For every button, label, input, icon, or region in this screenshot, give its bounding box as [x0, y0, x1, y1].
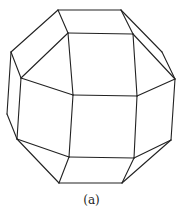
edge-MN [69, 157, 134, 158]
edge-CI [68, 33, 73, 95]
edge-DH [133, 34, 175, 79]
edge-AE [11, 10, 58, 52]
edge-AC [58, 10, 68, 33]
edge-HJ [137, 79, 175, 96]
edge-OQ [122, 140, 171, 183]
edge-MP [59, 157, 69, 183]
edge-HO [171, 79, 175, 140]
edge-BD [121, 10, 133, 34]
edge-NO [134, 140, 171, 158]
edge-CD [68, 33, 133, 34]
edge-KL [7, 114, 17, 139]
edge-NQ [122, 158, 134, 183]
polyhedron-figure [0, 0, 183, 213]
edge-BF [121, 10, 162, 52]
edge-JN [134, 96, 137, 158]
edge-CG [21, 33, 68, 78]
figure-caption: (a) [0, 193, 183, 207]
edge-IM [69, 95, 73, 157]
edge-EK [7, 52, 11, 114]
edge-DJ [133, 34, 137, 96]
edge-GL [17, 78, 21, 139]
edge-EG [11, 52, 21, 78]
edge-IJ [73, 95, 137, 96]
edge-LP [17, 139, 59, 183]
edge-LM [17, 139, 69, 157]
edge-FH [162, 52, 175, 79]
edge-GI [21, 78, 73, 95]
